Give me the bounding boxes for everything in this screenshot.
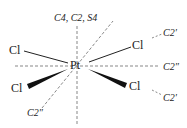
c2-prime-dash-lower — [152, 90, 162, 95]
cl-upper-left-label: Cl — [9, 45, 20, 56]
cl-lower-left-label: Cl — [11, 83, 22, 94]
bond-upper-right — [89, 47, 131, 62]
c2-prime-lower-label: C2′ — [163, 92, 177, 103]
c2-double-prime-right-label: C2″ — [163, 61, 179, 72]
cl-lower-right-label: Cl — [129, 81, 140, 92]
cl-upper-right-label: Cl — [132, 40, 143, 51]
principal-axis-label: C4, C2, S4 — [54, 12, 97, 23]
c2-prime-dash-upper — [152, 34, 162, 38]
wedge-bond-lower-left — [27, 69, 68, 89]
bond-upper-left — [24, 51, 68, 63]
wedge-bond-lower-right — [88, 69, 127, 88]
pt-atom-label: Pt — [70, 60, 80, 71]
ptcl4-symmetry-diagram: Pt Cl Cl Cl Cl C4, C2, S4 C2′ C2″ C2′ C2… — [0, 0, 187, 128]
c2-double-prime-lower-left-label: C2″ — [27, 107, 43, 118]
c2-prime-upper-label: C2′ — [163, 27, 177, 38]
